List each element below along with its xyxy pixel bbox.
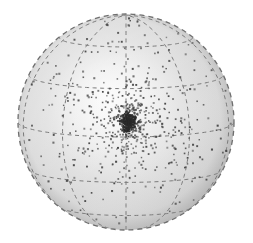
figure-root [0, 0, 253, 243]
sphere-point-distribution-plot [0, 0, 253, 243]
